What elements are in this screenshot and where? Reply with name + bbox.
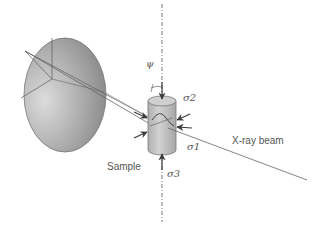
sigma2-label: σ2 (183, 92, 196, 103)
sample-label: Sample (107, 161, 141, 172)
sigma1-label: σ1 (187, 141, 200, 152)
diagram-svg (0, 0, 322, 233)
sigma3-label: σ3 (167, 168, 180, 179)
psi-angle-mark (151, 84, 162, 92)
diagram-canvas: ψ σ2 σ1 σ3 Sample X-ray beam (0, 0, 322, 233)
sample-cylinder (148, 96, 176, 155)
xray-beam-label: X-ray beam (232, 135, 284, 146)
psi-label: ψ (146, 58, 154, 69)
detector (21, 38, 106, 152)
